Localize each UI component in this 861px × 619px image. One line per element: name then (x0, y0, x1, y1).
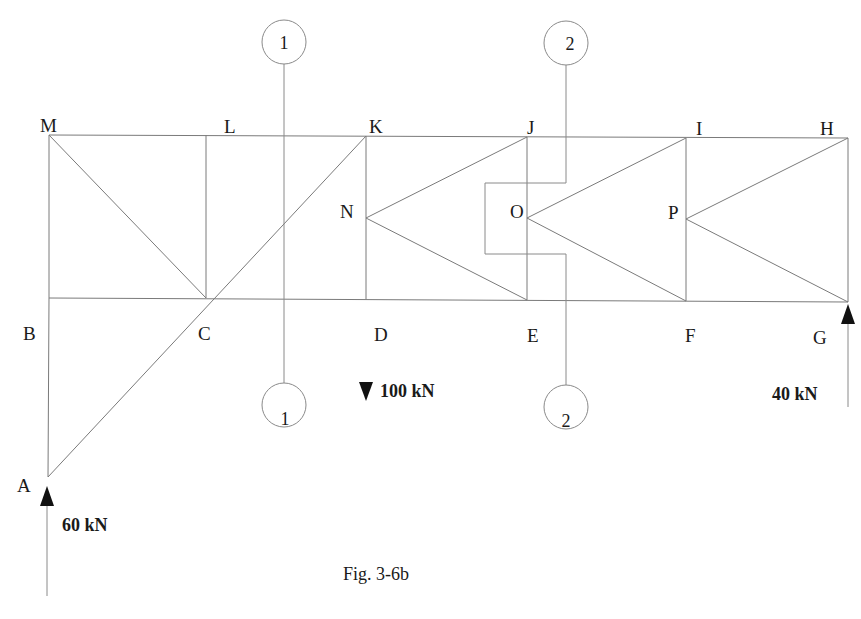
section-1-top-label: 1 (280, 33, 289, 53)
arrow-down-icon (359, 382, 373, 401)
load-60kN-reaction: 60 kN (40, 486, 108, 596)
node-label-O: O (510, 201, 524, 222)
member-top-chord (49, 135, 848, 138)
section-2-bottom-label: 2 (562, 411, 571, 431)
truss-members (48, 135, 848, 477)
node-label-K: K (369, 116, 383, 137)
member-PH (686, 138, 848, 219)
section-1: 1 1 (262, 20, 306, 429)
node-labels: M L K J I H N O P B C D E F G A (17, 115, 834, 496)
member-MC (49, 135, 206, 298)
node-label-J: J (527, 117, 534, 138)
member-NE (366, 218, 527, 300)
member-AK (48, 136, 366, 477)
node-label-N: N (340, 201, 354, 222)
node-label-F: F (685, 325, 696, 346)
member-bottom-chord (49, 298, 848, 302)
section-2: 2 2 (485, 21, 588, 431)
member-NJ (366, 137, 527, 218)
reaction-A-label: 60 kN (62, 515, 108, 535)
arrow-up-icon (40, 486, 54, 506)
node-label-A: A (17, 475, 31, 496)
figure-caption: Fig. 3-6b (343, 564, 409, 584)
node-label-P: P (668, 202, 679, 223)
truss-diagram: 1 1 2 2 M L K J I H N O P B C D E F G A … (0, 0, 861, 619)
member-BA (48, 298, 49, 477)
node-label-C: C (198, 323, 211, 344)
node-label-B: B (23, 323, 36, 344)
member-OI (527, 138, 686, 218)
node-label-H: H (820, 118, 834, 139)
node-label-L: L (224, 116, 236, 137)
section-2-top-label: 2 (566, 34, 575, 54)
node-label-G: G (813, 327, 827, 348)
member-OF (527, 218, 686, 301)
load-100kN: 100 kN (359, 381, 435, 401)
reaction-G-label: 40 kN (772, 384, 818, 404)
node-label-D: D (374, 324, 388, 345)
section-2-cut-line (485, 65, 566, 385)
load-40kN-reaction: 40 kN (772, 304, 855, 407)
arrow-up-icon (841, 304, 855, 324)
node-label-I: I (696, 118, 702, 139)
load-D-label: 100 kN (380, 381, 435, 401)
member-PG (686, 219, 848, 302)
section-1-bottom-label: 1 (281, 409, 290, 429)
node-label-M: M (40, 115, 57, 136)
node-label-E: E (527, 325, 539, 346)
